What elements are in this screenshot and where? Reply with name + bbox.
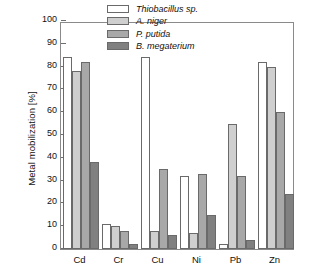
legend-label: B. megaterium [136,41,195,51]
x-axis-label-cu: Cu [138,254,178,265]
x-axis-label-ni: Ni [177,254,217,265]
y-tick-label: 70 [47,82,57,92]
bar [63,57,72,249]
x-axis-label-cd: Cd [60,254,100,265]
bar [228,124,237,249]
y-tick-label: 60 [47,105,57,115]
x-axis-label-zn: Zn [255,254,295,265]
bar-group [100,23,139,249]
y-tick-mark [61,20,66,21]
bar [102,224,111,249]
bar [189,233,198,249]
y-tick-label: 80 [47,60,57,70]
bar [267,67,276,249]
bar-group [61,23,100,249]
legend-swatch [107,42,129,50]
plot-area: 0102030405060708090100 [60,22,294,250]
y-tick-label: 50 [47,128,57,138]
bar [168,235,177,249]
bar [180,176,189,249]
bar [150,231,159,249]
bar [129,244,138,249]
y-tick-label: 100 [42,14,57,24]
legend-label: A. niger [136,16,167,26]
bar [246,240,255,249]
bar-group [178,23,217,249]
bar [111,226,120,249]
bar-chart-figure: Metal mobilization [%] 01020304050607080… [0,0,313,278]
legend-label: Thiobacillus sp. [136,4,198,14]
legend-swatch [107,30,129,38]
bar [198,174,207,249]
bar [276,112,285,249]
bar-group [217,23,256,249]
bar [207,215,216,249]
legend-item: Thiobacillus sp. [107,3,198,14]
legend-item: P. putida [107,28,198,39]
bar-group [256,23,295,249]
x-axis-label-cr: Cr [99,254,139,265]
bar [141,57,150,249]
y-tick-label: 10 [47,219,57,229]
bar [159,169,168,249]
legend-item: A. niger [107,16,198,27]
bar [81,62,90,249]
bar [90,162,99,249]
y-tick-label: 40 [47,151,57,161]
y-tick-label: 0 [52,242,57,252]
legend-swatch [107,17,129,25]
bar [285,194,294,249]
bar [219,244,228,249]
legend-item: B. megaterium [107,41,198,52]
x-axis-label-pb: Pb [216,254,256,265]
y-tick: 100 [61,20,66,21]
legend-swatch [107,5,129,13]
y-tick-label: 90 [47,37,57,47]
y-tick-label: 30 [47,174,57,184]
bar [237,176,246,249]
bar [72,71,81,249]
bar-group [139,23,178,249]
chart-legend: Thiobacillus sp.A. nigerP. putidaB. mega… [107,3,198,52]
y-tick-label: 20 [47,196,57,206]
bar [120,231,129,249]
y-axis-title: Metal mobilization [%] [26,44,37,234]
legend-label: P. putida [136,29,170,39]
bar [258,62,267,249]
